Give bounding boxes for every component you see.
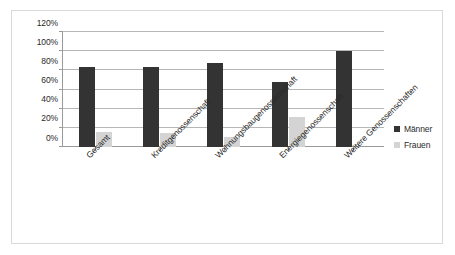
y-axis-tick-label: 40% <box>41 94 58 104</box>
legend-label: Frauen <box>404 140 430 150</box>
legend-entry[interactable]: Männer <box>394 122 455 136</box>
bar-maenner <box>143 67 159 148</box>
chart-frame: 0%20%40%60%80%100%120% GesamtKreditgenos… <box>11 10 443 244</box>
legend-swatch-icon <box>394 126 400 132</box>
bar-group <box>63 32 127 147</box>
bar-chart-figure: 0%20%40%60%80%100%120% GesamtKreditgenos… <box>0 0 455 255</box>
y-axis-tick-label: 100% <box>37 37 58 47</box>
y-axis-tick-label: 20% <box>41 113 58 123</box>
legend-entry[interactable]: Frauen <box>394 138 455 152</box>
plot-area: 0%20%40%60%80%100%120% <box>62 32 384 147</box>
legend-swatch-icon <box>394 142 400 148</box>
chart-legend: MännerFrauen <box>394 122 455 154</box>
bars-layer <box>63 32 384 147</box>
y-axis-tick-label: 60% <box>41 75 58 85</box>
y-axis-tick-label: 80% <box>41 56 58 66</box>
y-axis-tick-label: 0% <box>46 133 58 143</box>
legend-label: Männer <box>404 124 432 134</box>
bar-maenner <box>79 67 95 147</box>
x-axis-category-labels: GesamtKreditgenossenschaftWohnungsbaugen… <box>62 147 384 242</box>
y-axis-tick-label: 120% <box>37 18 58 28</box>
